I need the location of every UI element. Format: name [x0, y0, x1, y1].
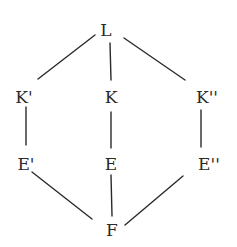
node-E-prime: E'	[17, 156, 34, 173]
node-K-prime: K'	[15, 89, 32, 106]
edge-E-F	[111, 175, 112, 216]
node-E: E	[105, 156, 117, 173]
edge-L-K	[110, 43, 111, 80]
node-K: K	[105, 89, 118, 106]
edge-E2-F	[125, 176, 183, 225]
node-K-double-prime: K''	[196, 89, 218, 106]
node-L: L	[100, 22, 111, 39]
node-E-double-prime: E''	[198, 156, 220, 173]
lattice-edges	[0, 0, 237, 247]
edge-E1-F	[32, 172, 92, 219]
node-F: F	[106, 222, 118, 239]
edge-L-K2	[124, 38, 185, 80]
edge-L-K1	[38, 35, 95, 79]
